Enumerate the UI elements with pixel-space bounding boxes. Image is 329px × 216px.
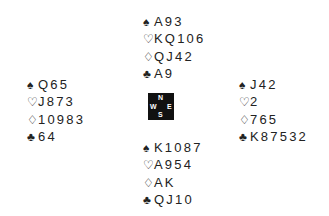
north-spades: A93 (154, 13, 184, 30)
south-diamonds-row: ♢AK (143, 174, 203, 191)
compass-west-label: W (150, 103, 157, 111)
west-hand: ♠Q65 ♡J873 ♢10983 ♣64 (27, 76, 85, 145)
heart-icon: ♡ (143, 31, 154, 48)
west-clubs: 64 (38, 128, 57, 145)
west-diamonds: 10983 (38, 111, 85, 128)
heart-icon: ♡ (143, 157, 154, 174)
east-hand: ♠J42 ♡2 ♢765 ♣K87532 (239, 76, 308, 145)
east-spades: J42 (250, 76, 278, 93)
east-clubs-row: ♣K87532 (239, 128, 308, 145)
club-icon: ♣ (143, 66, 154, 83)
spade-icon: ♠ (143, 14, 154, 31)
south-clubs: QJ10 (154, 191, 194, 208)
west-hearts: J873 (38, 93, 75, 110)
compass-south-label: S (158, 111, 163, 119)
east-hearts-row: ♡2 (239, 93, 308, 110)
west-diamonds-row: ♢10983 (27, 111, 85, 128)
club-icon: ♣ (27, 129, 38, 146)
north-hearts-row: ♡KQ106 (143, 30, 205, 47)
south-hand: ♠K1087 ♡A954 ♢AK ♣QJ10 (143, 139, 203, 208)
west-spades-row: ♠Q65 (27, 76, 85, 93)
north-clubs: A9 (154, 65, 174, 82)
south-clubs-row: ♣QJ10 (143, 191, 203, 208)
diamond-icon: ♢ (143, 49, 154, 66)
north-hand: ♠A93 ♡KQ106 ♢QJ42 ♣A9 (143, 13, 205, 82)
west-hearts-row: ♡J873 (27, 93, 85, 110)
diamond-icon: ♢ (239, 112, 250, 129)
north-clubs-row: ♣A9 (143, 65, 205, 82)
club-icon: ♣ (239, 129, 250, 146)
north-spades-row: ♠A93 (143, 13, 205, 30)
south-hearts: A954 (154, 156, 193, 173)
south-spades: K1087 (154, 139, 203, 156)
spade-icon: ♠ (143, 140, 154, 157)
compass-box: N W E S (148, 93, 174, 120)
east-clubs: K87532 (250, 128, 308, 145)
west-clubs-row: ♣64 (27, 128, 85, 145)
south-hearts-row: ♡A954 (143, 156, 203, 173)
spade-icon: ♠ (239, 77, 250, 94)
north-diamonds-row: ♢QJ42 (143, 48, 205, 65)
east-diamonds-row: ♢765 (239, 111, 308, 128)
east-diamonds: 765 (250, 111, 278, 128)
diamond-icon: ♢ (27, 112, 38, 129)
compass-east-label: E (167, 103, 172, 111)
club-icon: ♣ (143, 192, 154, 209)
spade-icon: ♠ (27, 77, 38, 94)
west-spades: Q65 (38, 76, 69, 93)
east-hearts: 2 (250, 93, 259, 110)
south-diamonds: AK (154, 174, 176, 191)
heart-icon: ♡ (239, 94, 250, 111)
north-hearts: KQ106 (154, 30, 205, 47)
north-diamonds: QJ42 (154, 48, 194, 65)
compass-north-label: N (158, 94, 163, 102)
south-spades-row: ♠K1087 (143, 139, 203, 156)
east-spades-row: ♠J42 (239, 76, 308, 93)
heart-icon: ♡ (27, 94, 38, 111)
diamond-icon: ♢ (143, 175, 154, 192)
